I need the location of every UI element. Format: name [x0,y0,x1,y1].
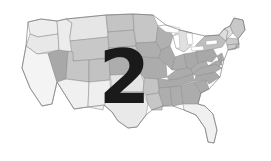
state-texas [104,92,148,128]
lake-erie [191,46,204,51]
lake-michigan [173,34,180,48]
us-choropleth-map [0,0,271,161]
state-oklahoma [110,74,144,92]
state-wyoming [70,37,109,61]
state-washington [28,19,58,37]
lake-ontario [206,40,217,45]
state-south-dakota [108,30,136,48]
us-map-figure: 2 [0,0,271,161]
state-colorado [89,58,110,82]
state-minnesota [133,14,158,43]
state-arkansas [143,78,159,95]
map-stage: 2 [0,0,271,161]
state-florida [183,104,217,143]
state-nebraska [109,46,140,58]
state-arizona [57,79,89,109]
state-montana [66,15,108,41]
state-alabama [170,86,183,106]
state-kansas [109,57,141,75]
state-north-dakota [106,14,134,32]
map-states-group [22,14,245,143]
